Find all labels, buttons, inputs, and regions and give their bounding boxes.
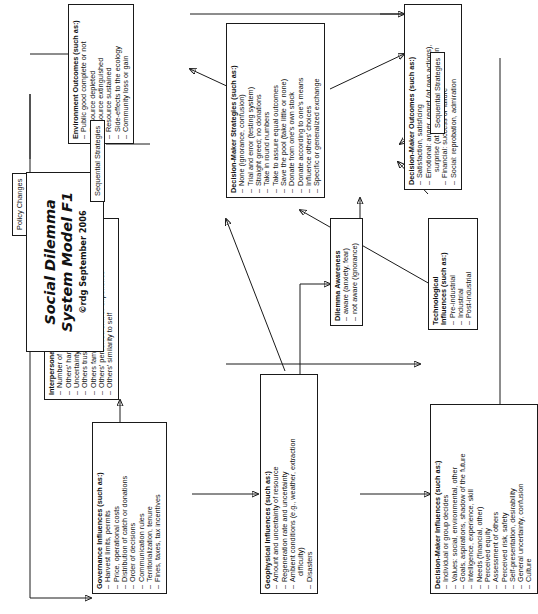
box-item-list: None (ignorance, confusion) Trial and er… <box>238 28 321 193</box>
box-decision-maker-influences: Decision-Maker Influences (such as:) Ind… <box>430 404 538 594</box>
list-item: Fines, taxes, tax incentives <box>154 427 162 589</box>
sequential-strategies-bottom-label: Sequential Strategies <box>430 52 445 134</box>
box-item-list: Public good complete or not Resource dep… <box>80 9 130 139</box>
title-line-1: Social Dilemma <box>42 199 58 325</box>
list-item: not aware (ignorance) <box>351 223 359 321</box>
box-technological-influences: Technological Influences (such as:) Pre-… <box>428 218 478 330</box>
list-item: Specific or generalized exchange <box>313 28 321 193</box>
box-geophysical-influences: Geophysical Influences (such as:) Amount… <box>260 374 318 594</box>
sequential-strategies-top-label: Sequential Strategies <box>90 120 105 202</box>
box-decision-maker-strategies: Decision-Maker Strategies (such as:) Non… <box>226 23 325 198</box>
box-item-list: Amount and uncertainty of resource Regen… <box>272 379 314 589</box>
list-item: Post-industrial <box>465 223 473 325</box>
list-item: Social: reprobation, admiration <box>450 9 458 185</box>
box-dilemma-awareness: Dilemma Awareness aware (anxiety, fear) … <box>330 218 363 326</box>
box-item-list: aware (anxiety, fear) not aware (ignoran… <box>342 223 359 321</box>
list-item: Culture <box>525 409 533 589</box>
box-item-list: Individual or group decides Values: soci… <box>442 409 533 589</box>
box-item-list: Harvest limits, permits Price, operation… <box>104 427 162 589</box>
policy-changes-label: Policy Changes <box>12 173 27 236</box>
title-line-2: System Model F1 <box>59 192 75 332</box>
list-item: Disasters <box>306 379 314 589</box>
list-item: Community loss or gain <box>122 9 130 139</box>
box-governance-influences: Governance Influences (such as:) Harvest… <box>92 422 167 594</box>
title-credit: ©rdg September 2006 <box>78 210 88 313</box>
list-item: Others' similarity to self <box>106 223 114 395</box>
box-item-list: Pre-industrial Industrial Post-industria… <box>449 223 474 325</box>
